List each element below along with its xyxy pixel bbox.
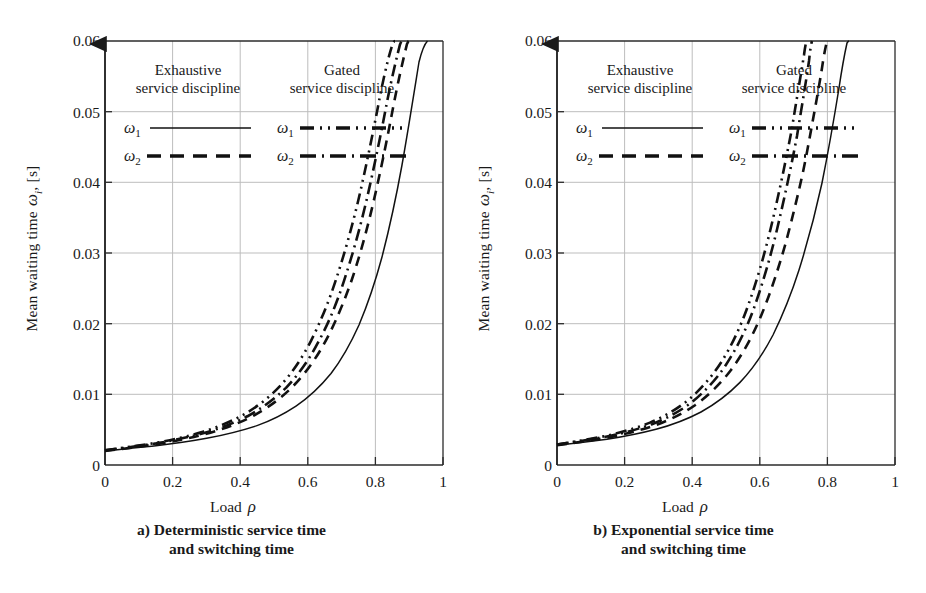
omega-subscript: i bbox=[32, 191, 44, 194]
legend-group-title-line1: Exhaustive bbox=[118, 62, 258, 80]
x-tick-2: 0.4 bbox=[672, 474, 712, 490]
legend-entry-omega1-exhaustive-a: ω1 bbox=[124, 120, 141, 139]
y-axis-label-a: Mean waiting timeωi, [s] bbox=[22, 144, 43, 354]
curve-omega1-exhaustive-a bbox=[105, 41, 428, 451]
legend-entry-omega1-gated-b: ω1 bbox=[729, 120, 746, 139]
y-tick-labels-b: 0 0.01 0.02 0.03 0.04 0.05 0.06 bbox=[488, 0, 552, 593]
y-tick-4: 0.04 bbox=[488, 175, 552, 191]
curve-omega2-gated-a bbox=[105, 41, 402, 450]
rho-symbol: ρ bbox=[694, 497, 708, 516]
legend-group-gated-b: Gated service discipline bbox=[724, 62, 864, 97]
x-tick-3: 0.6 bbox=[288, 474, 328, 490]
legend-group-title-line1: Exhaustive bbox=[570, 62, 710, 80]
omega-subscript: 2 bbox=[288, 155, 294, 167]
caption-a: a) Deterministic service time and switch… bbox=[0, 521, 463, 559]
y-tick-5: 0.05 bbox=[488, 105, 552, 121]
x-tick-1: 0.2 bbox=[153, 474, 193, 490]
x-axis-ticks-a bbox=[173, 457, 443, 465]
omega-subscript: 1 bbox=[288, 127, 294, 139]
omega-symbol: ω bbox=[124, 147, 135, 164]
grid-horizontal-b bbox=[557, 112, 895, 395]
legend-group-title-line2: service discipline bbox=[724, 80, 864, 98]
y-tick-0: 0 bbox=[36, 458, 100, 474]
legend-group-title-line2: service discipline bbox=[570, 80, 710, 98]
rho-symbol: ρ bbox=[242, 497, 256, 516]
omega-symbol: ω bbox=[124, 119, 135, 136]
y-tick-6: 0.06 bbox=[36, 33, 100, 49]
curve-omega2-gated-b bbox=[557, 41, 812, 445]
caption-line-2: and switching time bbox=[0, 540, 463, 559]
curve-omega1-exhaustive-b bbox=[557, 41, 849, 445]
caption-line-1: a) Deterministic service time bbox=[0, 521, 463, 540]
chart-panel-a: 0 0.01 0.02 0.03 0.04 0.05 0.06 0 0.2 0.… bbox=[0, 0, 463, 593]
y-tick-0: 0 bbox=[488, 458, 552, 474]
caption-line-1: b) Exponential service time bbox=[452, 521, 915, 540]
legend-group-title-line1: Gated bbox=[272, 62, 412, 80]
y-tick-labels-a: 0 0.01 0.02 0.03 0.04 0.05 0.06 bbox=[36, 0, 100, 593]
y-tick-1: 0.01 bbox=[488, 387, 552, 403]
x-tick-4: 0.8 bbox=[807, 474, 847, 490]
x-tick-1: 0.2 bbox=[605, 474, 645, 490]
omega-subscript: 1 bbox=[740, 127, 746, 139]
chart-panel-b: 0 0.01 0.02 0.03 0.04 0.05 0.06 0 0.2 0.… bbox=[463, 0, 926, 593]
omega-symbol: ω bbox=[22, 194, 41, 211]
y-tick-1: 0.01 bbox=[36, 387, 100, 403]
omega-subscript: 2 bbox=[587, 155, 593, 167]
legend-entry-omega2-gated-b: ω2 bbox=[729, 148, 746, 167]
y-axis-label-b: Mean waiting timeωi, [s] bbox=[474, 144, 495, 354]
omega-symbol: ω bbox=[729, 119, 740, 136]
omega-subscript: i bbox=[484, 191, 496, 194]
caption-line-2: and switching time bbox=[452, 540, 915, 559]
x-axis-label-text: Load bbox=[662, 498, 694, 515]
x-axis-ticks-b bbox=[625, 457, 895, 465]
curve-omega1-gated-b bbox=[557, 41, 807, 445]
legend-entry-omega2-exhaustive-b: ω2 bbox=[576, 148, 593, 167]
omega-symbol: ω bbox=[277, 119, 288, 136]
y-tick-3: 0.03 bbox=[36, 246, 100, 262]
x-tick-4: 0.8 bbox=[355, 474, 395, 490]
figure-two-panel-chart: 0 0.01 0.02 0.03 0.04 0.05 0.06 0 0.2 0.… bbox=[0, 0, 926, 593]
legend-entry-omega2-exhaustive-a: ω2 bbox=[124, 148, 141, 167]
x-tick-5: 1 bbox=[875, 474, 915, 490]
omega-subscript: 1 bbox=[135, 127, 141, 139]
legend-group-gated-a: Gated service discipline bbox=[272, 62, 412, 97]
curve-omega1-gated-a bbox=[105, 41, 395, 450]
y-tick-2: 0.02 bbox=[488, 317, 552, 333]
y-tick-2: 0.02 bbox=[36, 317, 100, 333]
x-axis-label-text: Load bbox=[210, 498, 242, 515]
omega-symbol: ω bbox=[729, 147, 740, 164]
legend-entry-omega1-gated-a: ω1 bbox=[277, 120, 294, 139]
x-tick-0: 0 bbox=[537, 474, 577, 490]
omega-subscript: 2 bbox=[740, 155, 746, 167]
grid-horizontal-a bbox=[105, 112, 443, 395]
x-tick-3: 0.6 bbox=[740, 474, 780, 490]
omega-symbol: ω bbox=[576, 147, 587, 164]
y-tick-3: 0.03 bbox=[488, 246, 552, 262]
omega-subscript: 2 bbox=[135, 155, 141, 167]
x-tick-0: 0 bbox=[85, 474, 125, 490]
y-axis-label-text: Mean waiting time bbox=[23, 211, 40, 331]
y-axis-unit: , [s] bbox=[475, 166, 492, 191]
y-axis-ticks-b bbox=[557, 112, 564, 395]
omega-symbol: ω bbox=[277, 147, 288, 164]
y-tick-4: 0.04 bbox=[36, 175, 100, 191]
y-axis-label-text: Mean waiting time bbox=[475, 211, 492, 331]
legend-group-title-line2: service discipline bbox=[272, 80, 412, 98]
legend-group-exhaustive-b: Exhaustive service discipline bbox=[570, 62, 710, 97]
omega-symbol: ω bbox=[474, 194, 493, 211]
legend-group-exhaustive-a: Exhaustive service discipline bbox=[118, 62, 258, 97]
legend-entry-omega2-gated-a: ω2 bbox=[277, 148, 294, 167]
curve-omega2-exhaustive-a bbox=[105, 41, 409, 451]
legend-group-title-line1: Gated bbox=[724, 62, 864, 80]
legend-entry-omega1-exhaustive-b: ω1 bbox=[576, 120, 593, 139]
x-tick-5: 1 bbox=[423, 474, 463, 490]
x-tick-2: 0.4 bbox=[220, 474, 260, 490]
y-tick-6: 0.06 bbox=[488, 33, 552, 49]
y-axis-ticks-a bbox=[105, 112, 112, 395]
y-axis-unit: , [s] bbox=[23, 166, 40, 191]
y-tick-5: 0.05 bbox=[36, 105, 100, 121]
caption-b: b) Exponential service time and switchin… bbox=[452, 521, 915, 559]
x-axis-label-a: Loadρ bbox=[210, 497, 256, 517]
x-axis-label-b: Loadρ bbox=[662, 497, 708, 517]
omega-subscript: 1 bbox=[587, 127, 593, 139]
